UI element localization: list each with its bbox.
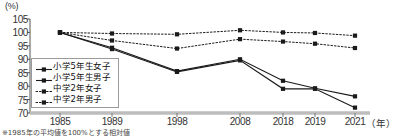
legend-item-1: 小学5年生男子 (35, 72, 115, 83)
data-point (238, 58, 242, 62)
legend-item-2: 中学2年女子 (35, 83, 115, 94)
x-tick-1989: 1989 (102, 116, 123, 127)
legend-item-0: 小学5年生女子 (35, 61, 115, 72)
data-point (58, 30, 62, 34)
chart-footnote: ※1985年の平均値を100%とする相対値 (2, 127, 130, 136)
legend-key-icon (35, 61, 53, 72)
chart-legend: 小学5年生女子小学5年生男子中学2年女子中学2年男子 (31, 58, 119, 108)
x-tick-2019: 2019 (305, 116, 326, 127)
x-tick-1998: 1998 (167, 116, 188, 127)
data-point (281, 30, 285, 34)
x-tick-2008: 2008 (230, 116, 251, 127)
legend-label: 小学5年生女子 (53, 61, 111, 72)
legend-item-3: 中学2年男子 (35, 94, 115, 105)
data-point (175, 46, 179, 50)
data-point (281, 87, 285, 91)
data-point (313, 31, 317, 35)
data-point (175, 32, 179, 36)
data-point (110, 38, 114, 42)
data-point (110, 31, 114, 35)
legend-label: 中学2年女子 (53, 83, 102, 94)
legend-key-icon (35, 94, 53, 105)
x-tick-2018: 2018 (273, 116, 294, 127)
data-point (353, 46, 357, 50)
x-axis-unit-label: （年） (366, 116, 396, 130)
legend-label: 中学2年男子 (53, 94, 102, 105)
data-point (238, 37, 242, 41)
data-point (110, 47, 114, 51)
data-point (353, 94, 357, 98)
data-point (313, 42, 317, 46)
data-point (238, 28, 242, 32)
series-line-3 (60, 30, 355, 35)
data-point (281, 79, 285, 83)
data-point (353, 34, 357, 38)
legend-key-icon (35, 83, 53, 94)
data-point (353, 106, 357, 110)
data-point (175, 70, 179, 74)
legend-label: 小学5年生男子 (53, 72, 111, 83)
chart-container: (%) 707580859095100105 小学5年生女子小学5年生男子中学2… (0, 0, 396, 136)
data-point (281, 39, 285, 43)
x-tick-2021: 2021 (345, 116, 366, 127)
x-tick-1985: 1985 (50, 116, 71, 127)
legend-key-icon (35, 72, 53, 83)
data-point (313, 87, 317, 91)
